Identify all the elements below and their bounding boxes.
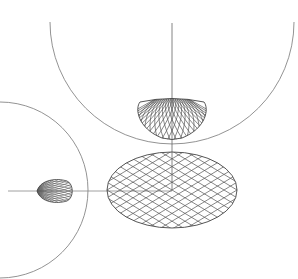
- construction-arc-left: [0, 102, 88, 278]
- diagram-canvas: [0, 0, 298, 279]
- technical-drawing: [0, 0, 298, 279]
